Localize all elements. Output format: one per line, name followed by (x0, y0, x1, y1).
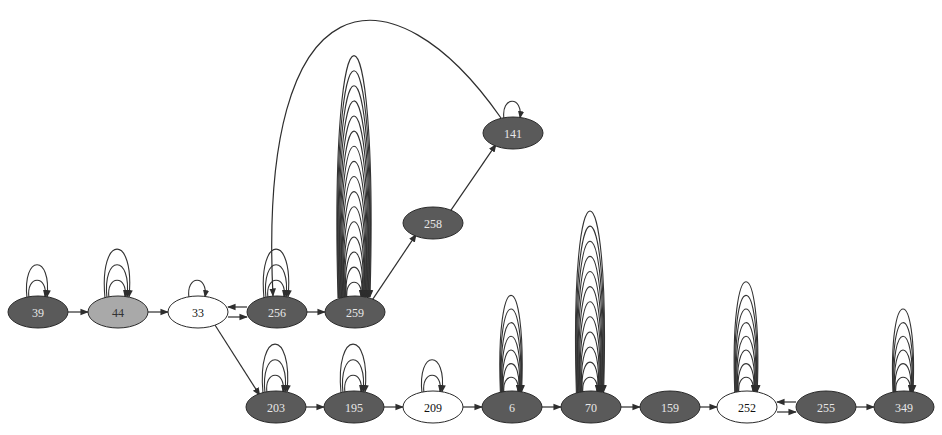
self-loop-group-195 (340, 344, 365, 393)
self-loop-edge (189, 280, 206, 298)
self-loop-edge (109, 280, 126, 298)
node-195[interactable]: 195 (324, 391, 384, 423)
self-loop-edge (268, 280, 285, 298)
self-loop-edge (265, 265, 286, 298)
self-loop-group-39 (26, 265, 47, 298)
self-loop-group-6 (500, 295, 522, 393)
self-loop-group-141 (504, 101, 521, 119)
self-loop-edge (503, 364, 519, 393)
node-255[interactable]: 255 (796, 391, 856, 423)
node-141[interactable]: 141 (483, 117, 543, 149)
self-loop-edge (267, 375, 284, 393)
node-label: 141 (504, 127, 522, 141)
node-label: 39 (32, 306, 44, 320)
self-loop-group-33 (189, 280, 206, 298)
self-loop-edge (345, 375, 362, 393)
node-label: 6 (509, 401, 515, 415)
node-label: 203 (267, 401, 285, 415)
node-label: 209 (424, 401, 442, 415)
node-39[interactable]: 39 (8, 296, 68, 328)
node-label: 70 (585, 401, 597, 415)
self-loop-group-349 (892, 309, 913, 393)
self-loop-group-209 (421, 360, 442, 393)
self-loop-edge (106, 265, 127, 298)
node-label: 33 (192, 306, 204, 320)
self-loop-edge (895, 364, 911, 393)
self-loop-edge (342, 360, 363, 393)
self-loop-edge (738, 364, 754, 393)
node-258[interactable]: 258 (403, 207, 463, 239)
node-259[interactable]: 259 (325, 296, 385, 328)
self-loop-group-256 (263, 249, 288, 298)
node-6[interactable]: 6 (482, 391, 542, 423)
edge-layer (68, 20, 874, 412)
self-loop-group-70 (576, 211, 605, 393)
self-loop-edge (421, 360, 442, 393)
self-loop-edge (344, 222, 364, 298)
node-label: 258 (424, 217, 442, 231)
node-label: 44 (112, 306, 124, 320)
node-label: 256 (268, 306, 286, 320)
node-label: 259 (346, 306, 364, 320)
node-256[interactable]: 256 (247, 296, 307, 328)
node-label: 159 (661, 401, 679, 415)
node-33[interactable]: 33 (168, 296, 228, 328)
edge-141-to-256 (272, 20, 501, 296)
self-loop-edge (26, 265, 47, 298)
node-label: 252 (738, 401, 756, 415)
node-252[interactable]: 252 (717, 391, 777, 423)
node-203[interactable]: 203 (246, 391, 306, 423)
self-loop-edge (504, 101, 521, 119)
node-label: 349 (895, 401, 913, 415)
self-loop-layer (26, 56, 913, 393)
node-159[interactable]: 159 (640, 391, 700, 423)
edge-259-to-258 (372, 234, 416, 300)
self-loop-group-259 (337, 56, 371, 298)
self-loop-group-252 (734, 282, 758, 393)
self-loop-edge (264, 360, 285, 393)
node-209[interactable]: 209 (403, 391, 463, 423)
state-transition-diagram: 3944332562592581412031952096701592522553… (0, 0, 942, 435)
self-loop-edge (424, 375, 441, 393)
self-loop-edge (580, 317, 600, 393)
node-layer: 3944332562592581412031952096701592522553… (8, 117, 934, 423)
node-70[interactable]: 70 (561, 391, 621, 423)
self-loop-group-44 (104, 249, 129, 298)
node-44[interactable]: 44 (88, 296, 148, 328)
node-label: 255 (817, 401, 835, 415)
edge-258-to-141 (450, 144, 496, 211)
edge-33-to-203 (214, 324, 260, 396)
node-349[interactable]: 349 (874, 391, 934, 423)
self-loop-edge (29, 280, 46, 298)
self-loop-group-203 (262, 344, 287, 393)
node-label: 195 (345, 401, 363, 415)
